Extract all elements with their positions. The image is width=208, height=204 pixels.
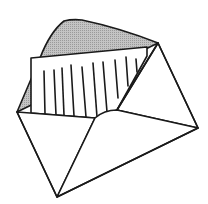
envelope-icon — [0, 0, 208, 204]
envelope-illustration — [0, 0, 208, 204]
